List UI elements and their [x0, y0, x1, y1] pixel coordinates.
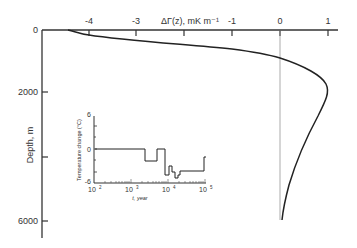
inset-x-tick-exp: 5 — [210, 185, 213, 190]
inset-x-axis-title: t, year — [132, 195, 148, 201]
inset-x-minor-ticks — [105, 179, 205, 183]
x-axis-title: ΔΓ(z), mK m⁻¹ — [161, 16, 219, 26]
temperature-history-step-line — [95, 149, 206, 178]
x-tick-label: -3 — [132, 16, 140, 26]
inset-y-tick-label: -6 — [85, 178, 91, 185]
inset-y-axis-title: Temperature change (°C) — [76, 119, 82, 181]
inset-x-tick-label: 10 — [199, 186, 207, 193]
main-plot: -4 -3 ΔΓ(z), mK m⁻¹ -1 0 1 0 2000 6000 D… — [18, 16, 338, 238]
inset-x-tick-label: 10 — [88, 186, 96, 193]
inset-x-tick-exp: 2 — [99, 185, 102, 190]
y-ticks — [42, 92, 48, 221]
x-tick-label: -1 — [228, 16, 236, 26]
inset-y-tick-label: 0 — [87, 146, 91, 153]
x-tick-label: 1 — [325, 16, 330, 26]
inset-x-tick-exp: 3 — [136, 185, 139, 190]
inset-x-tick-label: 10 — [125, 186, 133, 193]
inset-y-tick-label: 6 — [87, 111, 91, 118]
y-tick-label: 2000 — [18, 87, 38, 97]
inset-x-tick-label: 10 — [162, 186, 170, 193]
inset-x-tick-exp: 4 — [173, 185, 176, 190]
chart: -4 -3 ΔΓ(z), mK m⁻¹ -1 0 1 0 2000 6000 D… — [0, 0, 357, 248]
x-tick-label: 0 — [277, 16, 282, 26]
x-tick-label: -4 — [85, 16, 93, 26]
y-tick-label: 0 — [33, 25, 38, 35]
y-tick-label: 6000 — [18, 216, 38, 226]
y-axis-title: Depth, m — [25, 127, 35, 164]
x-ticks — [89, 30, 328, 36]
inset-plot: 6 0 -6 Temperature change (°C) 10 2 10 3… — [76, 111, 213, 201]
gradient-anomaly-curve — [68, 30, 328, 220]
